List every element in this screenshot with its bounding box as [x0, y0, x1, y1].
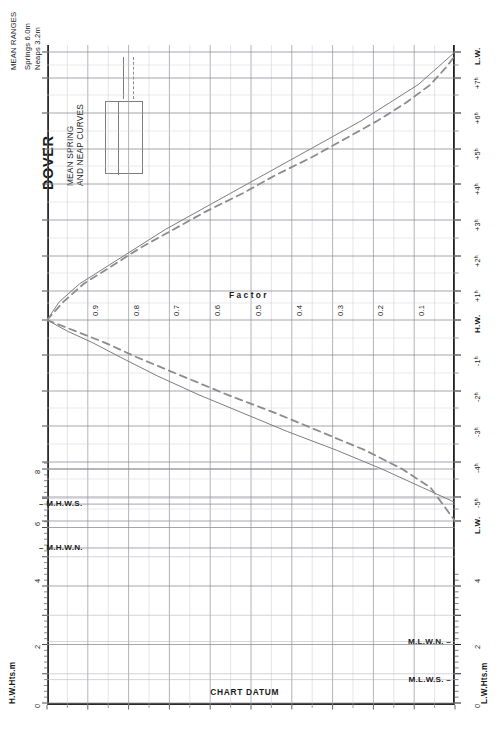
- time-tick--1: -1ʰ: [473, 356, 482, 366]
- grid-and-curves: [47, 45, 455, 705]
- time-tick-+7: +7ʰ: [473, 77, 482, 89]
- right-axis-caption: L.W.Hts.m: [480, 663, 489, 704]
- factor-tick-0-4: 0.4: [295, 305, 304, 316]
- factor-tick-0-2: 0.2: [376, 305, 385, 316]
- plot-area: [47, 45, 455, 705]
- time-tick-+4: +4ʰ: [473, 183, 482, 195]
- time-tick-HW: H.W.: [473, 315, 482, 333]
- time-tick-LW: L.W.: [473, 48, 482, 65]
- time-tick-+1: +1ʰ: [473, 290, 482, 302]
- factor-axis-title: Factor: [229, 290, 269, 300]
- right-height-tick-4: 4: [473, 579, 482, 583]
- time-tick--4: -4ʰ: [473, 463, 482, 473]
- time-tick-+3: +3ʰ: [473, 219, 482, 231]
- legend-neaps-label: Neaps 3.2m: [33, 27, 42, 70]
- bottom-axis-ticks: [47, 705, 455, 710]
- left-height-tick-8: 8: [33, 470, 42, 474]
- left-axis-caption: H.W.Hts.m: [8, 662, 17, 704]
- left-height-tick-2: 2: [33, 645, 42, 649]
- vertical-gridlines: [47, 45, 455, 705]
- level-label-mhws: – M.H.W.S.: [39, 499, 82, 508]
- factor-tick-0-6: 0.6: [213, 305, 222, 316]
- right-axis-ticks: [455, 52, 461, 703]
- factor-tick-0-8: 0.8: [132, 305, 141, 316]
- time-tick-+6: +6ʰ: [473, 112, 482, 124]
- time-tick--2: -2ʰ: [473, 392, 482, 402]
- right-axis-caption-container: L.W.Hts.m: [480, 704, 501, 713]
- level-label-mlws: M.L.W.S. –: [408, 675, 451, 684]
- time-tick-LW: L.W.: [473, 517, 482, 534]
- left-height-tick-6: 6: [33, 522, 42, 526]
- tidal-curve-diagram: DOVER MEAN SPRING AND NEAP CURVES MEAN R…: [0, 0, 501, 752]
- factor-tick-0-5: 0.5: [254, 305, 263, 316]
- level-label-mlwn: M.L.W.N. –: [408, 637, 451, 646]
- legend-title: MEAN RANGES: [9, 12, 18, 70]
- left-height-tick-4: 4: [33, 579, 42, 583]
- time-tick--5: -5ʰ: [473, 498, 482, 508]
- time-tick--3: -3ʰ: [473, 427, 482, 437]
- factor-tick-0-7: 0.7: [172, 305, 181, 316]
- level-label-mhwn: – M.H.W.N.: [39, 543, 83, 552]
- legend-springs-label: Springs 6.0m: [23, 23, 32, 70]
- factor-tick-0-1: 0.1: [417, 305, 426, 316]
- time-tick-+5: +5ʰ: [473, 148, 482, 160]
- time-tick-+2: +2ʰ: [473, 255, 482, 267]
- factor-tick-0-3: 0.3: [336, 305, 345, 316]
- factor-tick-0-9: 0.9: [91, 305, 100, 316]
- chart-datum-label: CHART DATUM: [210, 687, 279, 697]
- right-height-tick-2: 2: [473, 645, 482, 649]
- left-axis-caption-container: H.W.Hts.m: [8, 704, 50, 713]
